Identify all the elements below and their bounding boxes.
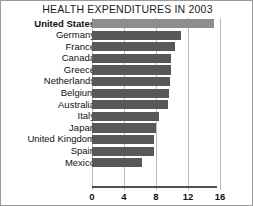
bar-row: United Kingdom (1, 134, 252, 146)
x-tick-label: 8 (153, 191, 158, 202)
bar-track (92, 100, 252, 109)
bar-track (92, 65, 252, 74)
chart-title: HEALTH EXPENDITURES IN 2003 (1, 3, 253, 15)
bar (92, 42, 175, 51)
category-label: Canada (62, 52, 95, 63)
x-axis-line (92, 186, 217, 188)
bar-row: United States (1, 18, 252, 30)
bar (92, 158, 142, 167)
bar-row: Mexico (1, 157, 252, 169)
bar (92, 54, 171, 63)
bar (92, 65, 171, 74)
bar-track (92, 42, 252, 51)
category-label: United Kingdom (27, 133, 95, 144)
bar-row: Japan (1, 122, 252, 134)
category-label: Netherlands (44, 75, 95, 86)
bar-track (92, 19, 252, 28)
bar (92, 31, 181, 40)
x-tick-label: 16 (215, 191, 226, 202)
bar-track (92, 123, 252, 132)
plot-area: United StatesGermanyFranceCanadaGreeceNe… (1, 18, 252, 186)
x-axis-ticks: 0 4 8 12 16 (1, 189, 252, 205)
bar-track (92, 135, 252, 144)
bar-track (92, 158, 252, 167)
bar-row: Netherlands (1, 76, 252, 88)
bar-track (92, 31, 252, 40)
bar (92, 135, 154, 144)
x-tick-label: 4 (121, 191, 126, 202)
bar-row: Australia (1, 99, 252, 111)
bar (92, 89, 169, 98)
category-label: United States (34, 18, 95, 29)
category-label: Germany (56, 29, 95, 40)
bar-row: Greece (1, 64, 252, 76)
category-label: France (65, 41, 95, 52)
bar-row: Spain (1, 146, 252, 158)
category-label: Greece (64, 64, 95, 75)
bar (92, 19, 214, 28)
bar (92, 123, 156, 132)
bar-row: Canada (1, 53, 252, 65)
bar-track (92, 89, 252, 98)
bar (92, 112, 159, 121)
bar-row: Germany (1, 30, 252, 42)
bar-row: Belgium (1, 88, 252, 100)
bar (92, 77, 170, 86)
x-tick-label: 12 (183, 191, 194, 202)
x-tick-label: 0 (89, 191, 94, 202)
bar-track (92, 147, 252, 156)
bar-row: Italy (1, 111, 252, 123)
bar-track (92, 112, 252, 121)
chart-container: HEALTH EXPENDITURES IN 2003 United State… (0, 0, 253, 206)
category-label: Belgium (61, 87, 95, 98)
category-label: Australia (58, 99, 95, 110)
bar (92, 100, 168, 109)
category-label: Mexico (65, 157, 95, 168)
bar-track (92, 54, 252, 63)
bar-track (92, 77, 252, 86)
bar (92, 147, 154, 156)
bar-row: France (1, 41, 252, 53)
